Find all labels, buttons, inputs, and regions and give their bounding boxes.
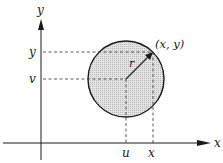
- tick-label-v: v: [29, 72, 36, 86]
- tick-label-x: x: [148, 146, 155, 160]
- y-axis-label: y: [36, 3, 44, 17]
- x-axis-arrow-icon: [197, 140, 211, 146]
- radius-label: r: [129, 57, 135, 70]
- y-axis-arrow-icon: [38, 19, 44, 30]
- x-axis-label: x: [214, 136, 221, 150]
- diagram-canvas: y x y v u x r (x, y): [0, 0, 223, 163]
- tick-label-y: y: [28, 45, 36, 59]
- point-label: (x, y): [155, 37, 184, 51]
- tick-label-u: u: [122, 146, 130, 160]
